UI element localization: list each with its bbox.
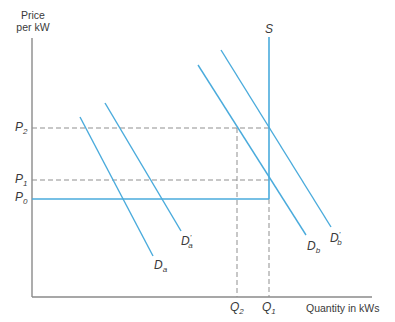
- demand-curve-da-prime: [105, 103, 181, 231]
- demand-label-da: Da: [154, 259, 167, 276]
- price-label-p0: P0: [15, 191, 27, 208]
- y-axis-title: Price per kW: [14, 9, 52, 33]
- demand-label-db-prime: D'b: [330, 229, 342, 249]
- demand-label-da-prime: D'a: [181, 232, 193, 252]
- quantity-label-q2: Q2: [230, 301, 244, 318]
- quantity-label-sub: 2: [239, 307, 243, 316]
- quantity-label-q1: Q1: [262, 301, 276, 318]
- demand-curve-db: [198, 65, 306, 235]
- x-axis-title: Quantity in kWs: [306, 302, 380, 314]
- price-label-p1: P1: [15, 173, 27, 190]
- demand-label-base: D: [154, 258, 163, 272]
- price-label-base: P: [15, 172, 23, 186]
- price-label-base: P: [15, 190, 23, 204]
- demand-label-sub: a: [163, 265, 167, 274]
- demand-label-sub: b: [316, 246, 320, 255]
- price-label-base: P: [15, 120, 23, 134]
- quantity-label-base: Q: [230, 300, 239, 314]
- price-label-p2: P2: [15, 121, 27, 138]
- y-axis-title-line2: per kW: [14, 21, 52, 33]
- y-axis-title-line1: Price: [14, 9, 52, 21]
- diagram-canvas: [0, 0, 395, 322]
- price-label-sub: 0: [23, 197, 27, 206]
- price-label-sub: 2: [23, 127, 27, 136]
- demand-label-db: Db: [307, 240, 320, 257]
- supply-label: S: [265, 23, 273, 35]
- quantity-label-sub: 1: [271, 307, 275, 316]
- demand-curve-da: [80, 117, 153, 256]
- demand-label-base: D: [307, 239, 316, 253]
- demand-label-sub: b: [337, 238, 341, 247]
- quantity-label-base: Q: [262, 300, 271, 314]
- demand-label-sub: a: [188, 241, 192, 250]
- price-label-sub: 1: [23, 179, 27, 188]
